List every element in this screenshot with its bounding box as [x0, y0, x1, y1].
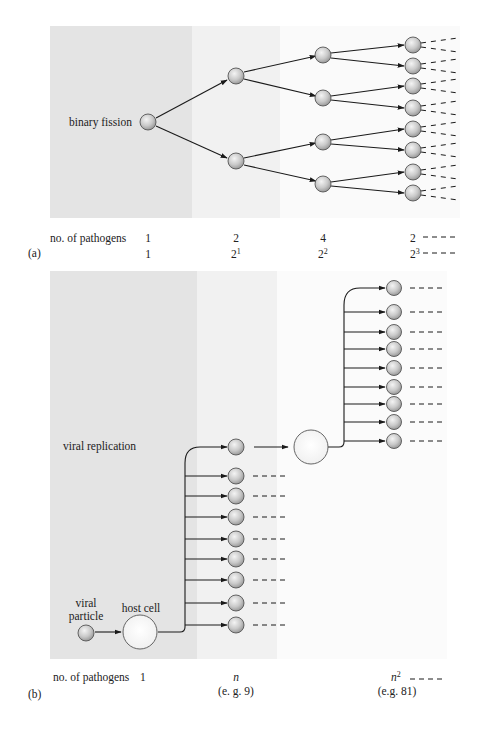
- diagram-canvas: [0, 0, 481, 734]
- power-exponent: 3: [416, 247, 420, 256]
- viral-particle-label-1: viral: [75, 598, 96, 610]
- count-gen0-b: 1: [140, 672, 146, 684]
- example-gen1-b: (e. g. 9): [218, 686, 254, 698]
- bacterium-gen0: [140, 114, 156, 130]
- viral-particle: [78, 625, 94, 641]
- count-gen2-b: n2: [391, 672, 401, 684]
- count-gen3-a: 2: [410, 233, 416, 245]
- power-exponent: 1: [237, 247, 241, 256]
- viral-particle-label-2: particle: [69, 611, 103, 623]
- power-gen3-a: 23: [410, 249, 420, 261]
- power-gen0-a: 1: [145, 249, 151, 261]
- power-base: 2: [410, 248, 416, 260]
- count-dashes-a: [423, 237, 458, 253]
- count-exponent: 2: [397, 670, 401, 679]
- panel-a-letter: (a): [28, 248, 41, 260]
- count-gen1-b: n: [233, 672, 239, 684]
- pathogen-count-label-a: no. of pathogens: [50, 233, 126, 245]
- panel-b-letter: (b): [28, 689, 41, 701]
- count-gen0-a: 1: [145, 233, 151, 245]
- power-base: 2: [318, 248, 324, 260]
- power-gen1-a: 21: [231, 249, 241, 261]
- power-base: 2: [231, 248, 237, 260]
- pathogen-count-label-b: no. of pathogens: [53, 672, 129, 684]
- power-gen2-a: 22: [318, 249, 328, 261]
- power-exponent: 2: [324, 247, 328, 256]
- host-cell-label: host cell: [122, 603, 161, 615]
- count-gen2-a: 4: [320, 233, 326, 245]
- example-gen2-b: (e.g. 81): [378, 686, 417, 698]
- count-gen1-a: 2: [233, 233, 239, 245]
- host-cell-2: [294, 430, 328, 464]
- count-gen3-value: 2: [410, 232, 416, 244]
- binary-fission-label: binary fission: [69, 117, 132, 129]
- viral-replication-label: viral replication: [63, 441, 136, 453]
- count-base: n: [391, 671, 397, 683]
- host-cell-1: [123, 615, 157, 649]
